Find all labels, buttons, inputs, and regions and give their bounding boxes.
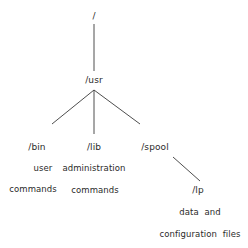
node-root: / <box>92 11 95 21</box>
node-lp-desc-line2: configuration files <box>159 229 240 239</box>
edge-spool-lp <box>173 157 200 181</box>
node-lib: /lib <box>87 142 101 152</box>
node-bin-desc-line2: commands <box>9 184 57 194</box>
edge-usr-bin <box>52 90 94 124</box>
edge-usr-spool <box>94 90 140 124</box>
node-lp: /lp <box>192 185 204 195</box>
node-lib-desc-line1: administration <box>62 163 125 173</box>
node-bin-desc-line1: user <box>34 163 53 173</box>
node-bin: /bin <box>28 142 45 152</box>
node-spool: /spool <box>141 142 169 152</box>
node-lib-desc-line2: commands <box>71 185 119 195</box>
node-usr: /usr <box>85 75 103 85</box>
directory-tree-diagram: / /usr /bin user commands /lib administr… <box>0 0 248 248</box>
node-lp-desc-line1: data and <box>179 207 220 217</box>
